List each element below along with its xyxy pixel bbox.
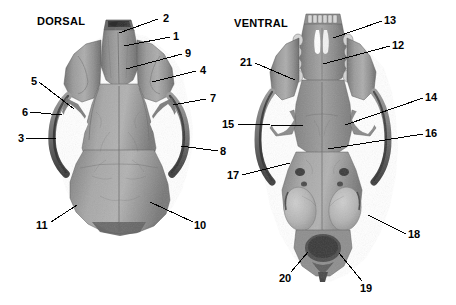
callout-label-12: 12 bbox=[392, 40, 404, 51]
callout-label-20: 20 bbox=[279, 273, 291, 284]
anatomical-figure: DORSAL VENTRAL 2194576381110131221141516… bbox=[0, 0, 456, 305]
callout-label-6: 6 bbox=[22, 107, 28, 118]
callout-label-7: 7 bbox=[210, 93, 216, 104]
callout-label-9: 9 bbox=[185, 48, 191, 59]
callout-label-4: 4 bbox=[200, 65, 206, 76]
callout-label-18: 18 bbox=[408, 229, 420, 240]
callout-label-16: 16 bbox=[425, 128, 437, 139]
callout-label-15: 15 bbox=[222, 119, 234, 130]
skull-figure-graphic bbox=[0, 0, 456, 305]
ventral-view-title: VENTRAL bbox=[234, 17, 288, 29]
callout-label-11: 11 bbox=[36, 220, 48, 231]
callout-label-19: 19 bbox=[360, 283, 372, 294]
callout-label-1: 1 bbox=[173, 31, 179, 42]
callout-label-5: 5 bbox=[31, 76, 37, 87]
leader-line-11 bbox=[51, 205, 77, 222]
callout-label-17: 17 bbox=[227, 170, 239, 181]
callout-label-14: 14 bbox=[425, 92, 437, 103]
callout-label-8: 8 bbox=[220, 146, 226, 157]
callout-label-10: 10 bbox=[194, 220, 206, 231]
callout-label-21: 21 bbox=[240, 57, 252, 68]
callout-label-3: 3 bbox=[18, 133, 24, 144]
callout-label-2: 2 bbox=[163, 13, 169, 24]
dorsal-view-title: DORSAL bbox=[37, 15, 85, 27]
callout-label-13: 13 bbox=[384, 15, 396, 26]
dorsal-skull-photo bbox=[50, 18, 200, 238]
